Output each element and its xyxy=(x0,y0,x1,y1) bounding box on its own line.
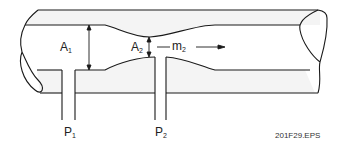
label-p1: P1 xyxy=(64,126,76,142)
label-a2: A2 xyxy=(131,41,143,57)
label-m2: m2 xyxy=(172,40,186,56)
a1-arrow-down-icon xyxy=(87,65,91,70)
a2-arrow-up-icon xyxy=(147,37,151,42)
pressure-tap-p1 xyxy=(62,70,75,120)
venturi-diagram xyxy=(0,0,343,146)
label-a1: A1 xyxy=(60,41,72,57)
pressure-tap-p2 xyxy=(155,57,166,120)
a1-arrow-up-icon xyxy=(87,25,91,30)
label-p2: P2 xyxy=(155,126,167,142)
flow-arrow-icon xyxy=(218,45,225,49)
a2-arrow-down-icon xyxy=(147,52,151,57)
figure-id: 201F29.EPS xyxy=(275,131,320,140)
